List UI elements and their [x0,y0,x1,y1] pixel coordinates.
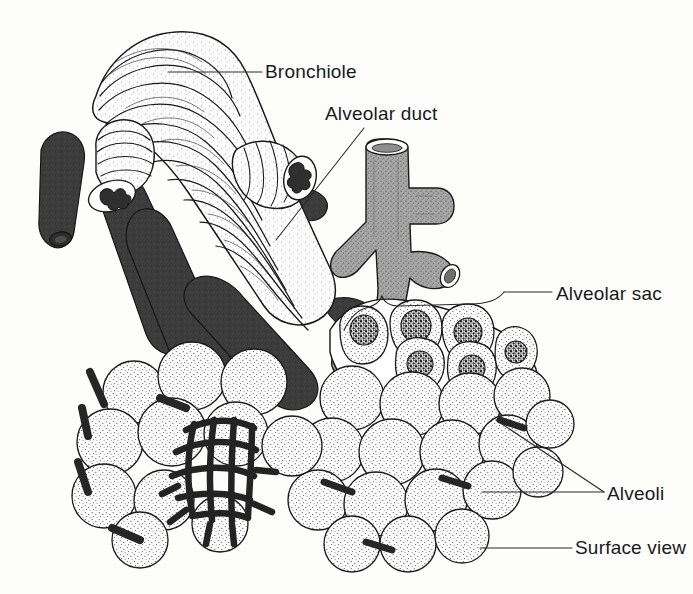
label-surface-view: Surface view [575,538,686,557]
label-bronchiole: Bronchiole [265,62,357,81]
label-alveolar-sac: Alveolar sac [556,284,662,303]
alveoli-cluster-left [72,342,322,568]
label-alveoli: Alveoli [607,484,664,503]
label-alveolar-duct: Alveolar duct [325,104,437,123]
